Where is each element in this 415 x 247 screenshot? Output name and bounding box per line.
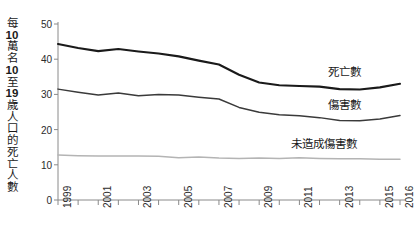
x-tick-label: 2003 bbox=[142, 186, 153, 208]
x-tick-label: 2001 bbox=[102, 186, 113, 208]
x-tick-label: 2007 bbox=[223, 186, 234, 208]
legend-label-1: 傷害數 bbox=[328, 96, 361, 112]
x-tick-label: 1999 bbox=[62, 186, 73, 208]
x-tick-label: 2011 bbox=[303, 186, 314, 208]
x-tick-label: 2013 bbox=[344, 186, 355, 208]
legend-label-0: 死亡數 bbox=[328, 63, 361, 79]
x-tick-label: 2005 bbox=[183, 186, 194, 208]
x-tick-label: 2016 bbox=[404, 186, 415, 208]
legend-label-2: 未造成傷害數 bbox=[291, 135, 357, 151]
x-tick-label: 2009 bbox=[263, 186, 274, 208]
x-tick-label: 2015 bbox=[384, 186, 395, 208]
